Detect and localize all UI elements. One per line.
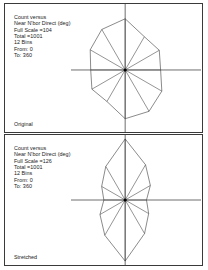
rose-spoke-120 bbox=[125, 70, 162, 91]
rose-spoke-240 bbox=[100, 200, 125, 215]
rose-center-dot bbox=[124, 198, 127, 201]
rose-spoke-120 bbox=[125, 200, 148, 214]
rose-spoke-330 bbox=[106, 166, 125, 200]
info-line-to: To: 360 bbox=[14, 183, 70, 189]
rose-spoke-60 bbox=[125, 50, 159, 70]
panel-caption-stretched: Stretched bbox=[14, 254, 37, 261]
rose-spoke-210 bbox=[105, 200, 125, 235]
panel-stretched: Count versus Near N'bor Direct (deg) Ful… bbox=[4, 134, 203, 266]
rose-spoke-330 bbox=[102, 29, 125, 70]
rose-diagram-original bbox=[70, 4, 202, 132]
info-block-original: Count versus Near N'bor Direct (deg) Ful… bbox=[14, 14, 70, 58]
panel-original: Count versus Near N'bor Direct (deg) Ful… bbox=[4, 3, 203, 133]
rose-svg-stretched bbox=[70, 135, 202, 265]
rose-spoke-240 bbox=[92, 70, 125, 89]
rose-center-dot bbox=[124, 68, 127, 71]
info-block-stretched: Count versus Near N'bor Direct (deg) Ful… bbox=[14, 145, 70, 189]
rose-spoke-300 bbox=[90, 50, 125, 70]
rose-spoke-30 bbox=[125, 37, 144, 70]
rose-svg-original bbox=[70, 4, 202, 132]
info-line-variable: Near N'bor Direct (deg) bbox=[14, 20, 70, 26]
rose-spoke-30 bbox=[125, 165, 145, 200]
rose-spoke-210 bbox=[107, 70, 125, 102]
rose-spoke-150 bbox=[125, 200, 144, 234]
rose-spoke-60 bbox=[125, 185, 150, 200]
rose-spoke-150 bbox=[125, 70, 149, 111]
rose-diagram-stretched bbox=[70, 135, 202, 265]
info-line-to: To: 360 bbox=[14, 52, 70, 58]
info-line-variable: Near N'bor Direct (deg) bbox=[14, 151, 70, 157]
panel-caption-original: Original bbox=[14, 121, 33, 128]
rose-spoke-300 bbox=[102, 186, 125, 200]
page-root: Count versus Near N'bor Direct (deg) Ful… bbox=[0, 0, 208, 270]
